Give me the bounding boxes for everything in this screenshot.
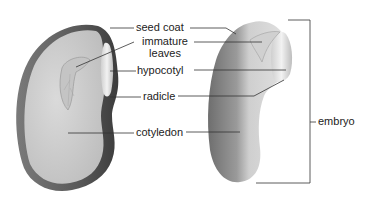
embryo-illustration xyxy=(208,21,292,182)
label-embryo: embryo xyxy=(318,116,355,127)
label-immature-leaves: immature leaves xyxy=(137,36,193,59)
left-seed-half xyxy=(16,25,118,191)
embryo-hypocotyl xyxy=(271,32,292,82)
label-radicle: radicle xyxy=(143,91,175,102)
label-immature-leaves-line1: immature xyxy=(137,36,193,47)
label-immature-leaves-line2: leaves xyxy=(137,48,193,59)
label-seed-coat: seed coat xyxy=(136,22,184,33)
label-hypocotyl: hypocotyl xyxy=(137,65,183,76)
label-cotyledon: cotyledon xyxy=(136,127,183,138)
